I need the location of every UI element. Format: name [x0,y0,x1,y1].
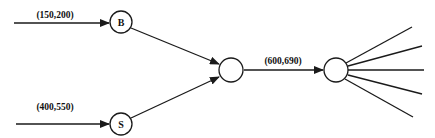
fan-out-edges [345,27,424,117]
edge-label-input-b: (150,200) [36,10,73,21]
edge-label-input-s: (400,550) [36,102,73,113]
edge-b-to-merge [131,28,219,64]
flow-diagram: (150,200) (400,550) (600,690) B [0,0,435,138]
node-split [324,58,348,82]
edge-input-s: (400,550) [16,102,109,124]
edge-input-b: (150,200) [14,10,109,23]
node-b-label: B [118,17,125,28]
edge-label-merge-to-split: (600,690) [264,56,301,67]
fan-out-edge-5 [345,79,413,117]
node-s-label: S [118,119,124,130]
edge-merge-to-split: (600,690) [244,56,323,70]
fan-out-edge-4 [348,75,422,94]
edge-s-to-merge [131,77,219,118]
node-b: B [110,11,132,33]
node-merge [219,58,243,82]
node-s: S [110,113,132,135]
